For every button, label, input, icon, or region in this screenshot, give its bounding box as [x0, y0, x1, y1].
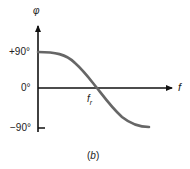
tick-label-pos90: +90° — [9, 47, 30, 57]
resonant-frequency-label: fr — [87, 94, 92, 106]
caption-text: (b) — [87, 150, 99, 161]
figure-caption: (b) — [87, 151, 99, 161]
phase-curve — [38, 52, 149, 127]
fr-sub: r — [90, 99, 92, 106]
x-axis-label: f — [178, 82, 181, 93]
y-axis-label: φ — [33, 6, 40, 16]
tick-label-zero: 0° — [21, 83, 31, 93]
tick-label-neg90: −90° — [10, 123, 31, 133]
